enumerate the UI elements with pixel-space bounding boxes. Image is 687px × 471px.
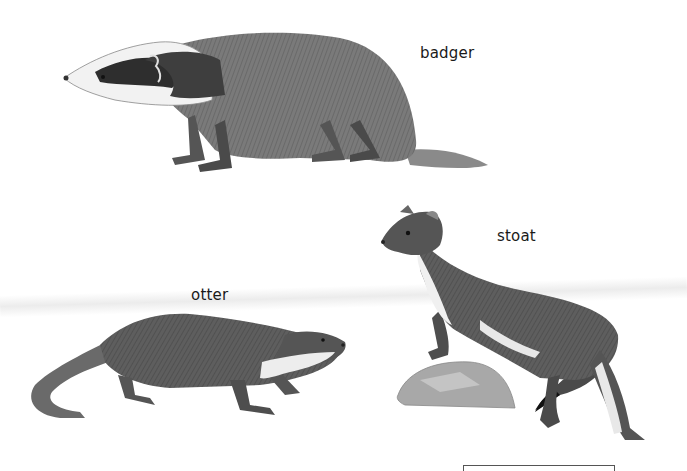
- label-stoat: stoat: [497, 227, 536, 245]
- label-badger: badger: [420, 44, 474, 62]
- label-otter: otter: [191, 286, 228, 304]
- scale-bar: [463, 465, 615, 471]
- otter-drawing: [31, 314, 345, 418]
